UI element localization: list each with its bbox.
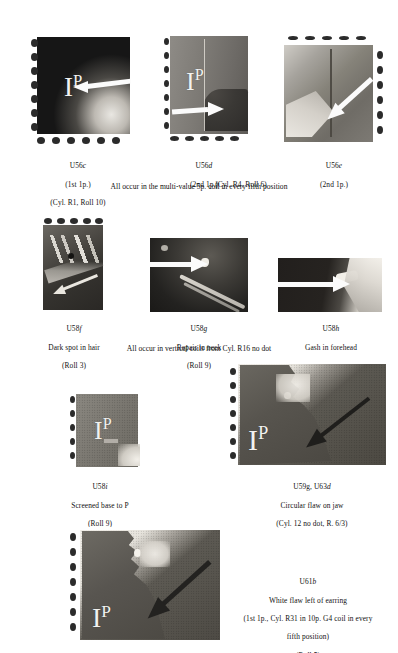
cheek-highlight-u59g [276, 374, 310, 402]
light-spot-u58g [161, 245, 168, 251]
flaw-arrow-u58g [150, 256, 208, 272]
caption-u56d-line-0: U56d [152, 161, 256, 170]
perforation-left-u61b [70, 533, 77, 637]
perforation-bottom-u56d [168, 136, 250, 143]
perforation-top-u56e [286, 36, 376, 43]
stamp-image-u58f [41, 217, 105, 312]
caption-u56c-line-2: (Cyl. R1, Roll 10) [22, 198, 134, 207]
stamp-value-u59g: IP [248, 424, 268, 455]
stamp-image-u59g-u63d: IP [222, 362, 388, 468]
caption-u56c-line-0: U56c [22, 161, 134, 170]
perforation-left-u58i [70, 396, 77, 468]
perforation-right-u56e [377, 51, 384, 139]
caption-u59g-line-0: U59g, U63d [232, 482, 392, 491]
caption-u59g-line-2: (Cyl. 12 no dot, R. 6/3) [232, 519, 392, 528]
flaw-arrow-u58h [278, 276, 350, 292]
caption-u61b: U61b White flaw left of earring (1st 1p.… [218, 568, 398, 653]
caption-u56e-line-0: U56e [284, 161, 384, 170]
perforation-top-u58f [43, 218, 103, 225]
group-1-footnote: All occur in the multi-value 5p. coil in… [0, 182, 398, 191]
stamp-image-u56c: IP [24, 33, 132, 146]
stamp-image-u58g [150, 238, 248, 312]
stamp-image-u56e [282, 33, 386, 146]
caption-u58f-line-0: U58f [18, 324, 130, 333]
flaw-arrow-u56c [73, 80, 130, 92]
caption-u58h-line-0: U58h [278, 324, 384, 333]
caption-u61b-line-1: White flaw left of earring [218, 596, 398, 605]
stamp-image-u56d: IP [158, 33, 250, 146]
perforation-left-u56c [31, 39, 38, 135]
vertical-line-flaw-u56d [204, 39, 205, 131]
caption-u58i-line-1: Screened base to P [42, 501, 158, 510]
caption-u58i-line-0: U58i [42, 482, 158, 491]
caption-u58f-line-2: (Roll 3) [18, 361, 130, 370]
reference-plate-page: IP IP [0, 0, 398, 653]
chin-highlight-u58i [118, 444, 140, 466]
stamp-value-u56d: IP [186, 67, 204, 95]
group-2-footnote: All occur in vertical coils from Cyl. R1… [0, 344, 398, 353]
caption-u59g-u63d: U59g, U63d Circular flaw on jaw (Cyl. 12… [232, 473, 392, 537]
caption-u61b-line-3: fifth position) [218, 632, 398, 641]
screened-base-flaw-u58i [104, 439, 118, 443]
stamp-image-u58i: IP [60, 392, 140, 470]
stamp-image-u58h [278, 258, 382, 312]
caption-u61b-line-2: (1st 1p., Cyl. R31 in 10p. G4 coil in ev… [218, 614, 398, 623]
caption-u56e: U56e (2nd 1p.) [284, 152, 384, 198]
caption-u58g-line-0: U58g [146, 324, 252, 333]
stamp-value-u61b: IP [92, 603, 111, 632]
dark-spot-flaw-u58f [68, 253, 74, 259]
caption-u61b-line-0: U61b [218, 577, 398, 586]
caption-u59g-line-1: Circular flaw on jaw [232, 501, 392, 510]
perforation-bottom-u56c [35, 137, 131, 144]
perforation-left-u59g [230, 368, 237, 462]
flaw-arrow-u56d [172, 102, 224, 116]
stamp-image-u61b: IP [62, 527, 222, 643]
perforation-left-u56d [164, 38, 171, 134]
